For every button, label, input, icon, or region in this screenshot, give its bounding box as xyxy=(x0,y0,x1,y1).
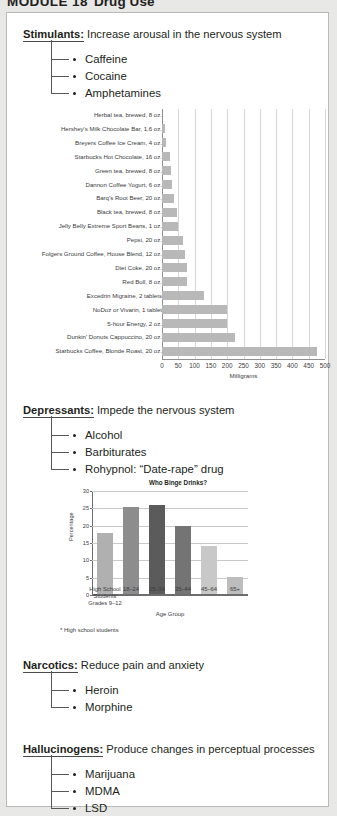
x-axis xyxy=(162,359,325,360)
list-item-label: Heroin xyxy=(85,684,119,696)
bracket-twig xyxy=(52,452,69,453)
bar-row: Black tea, brewed, 8 oz. xyxy=(7,206,330,218)
bullet-icon xyxy=(73,468,76,471)
bar-label: Excedrin Migraine, 2 tablets xyxy=(87,290,162,302)
chart-footnote: * High school students xyxy=(60,627,119,633)
category-item-list: Marijuana MDMA LSD xyxy=(51,766,328,816)
category-name: Stimulants: xyxy=(23,28,84,42)
list-item: Marijuana xyxy=(51,766,328,783)
y-axis-tick: 20 xyxy=(83,523,89,529)
list-item-label: Rohypnol: “Date-rape” drug xyxy=(85,463,224,475)
x-axis-tick: 500 xyxy=(313,362,337,369)
bar xyxy=(175,526,191,594)
bar-label: Jelly Belly Extreme Sport Beans, 1 oz. xyxy=(59,220,162,232)
bar-row: Breyers Coffee Ice Cream, 4 oz. xyxy=(7,137,330,149)
y-axis-tickmark xyxy=(90,508,92,509)
chart-title: Who Binge Drinks? xyxy=(64,479,292,486)
bracket-twig xyxy=(52,435,69,436)
content-card: Stimulants: Increase arousal in the nerv… xyxy=(6,12,329,807)
bullet-icon xyxy=(73,706,76,709)
bracket-twig xyxy=(52,59,69,60)
bar xyxy=(162,291,204,300)
bar-row: Barq's Root Beer, 20 oz. xyxy=(7,192,330,204)
bar xyxy=(162,277,187,286)
y-axis-tickmark xyxy=(90,526,92,527)
bar-label: Pepsi, 20 oz. xyxy=(127,234,162,246)
list-item-label: Amphetamines xyxy=(85,87,161,99)
list-item: Cocaine xyxy=(51,68,328,85)
category-heading: Stimulants: Increase arousal in the nerv… xyxy=(23,27,328,41)
list-item-label: Barbiturates xyxy=(85,446,146,458)
bullet-icon xyxy=(73,773,76,776)
bar-label: 5-hour Energy, 2 oz. xyxy=(107,318,162,330)
bar xyxy=(162,166,171,175)
bar xyxy=(162,333,235,342)
list-item: Rohypnol: “Date-rape” drug xyxy=(51,461,328,478)
list-item: Caffeine xyxy=(51,51,328,68)
bracket-twig xyxy=(52,774,69,775)
bracket-twig xyxy=(52,76,69,77)
bar-row: Jelly Belly Extreme Sport Beans, 1 oz. xyxy=(7,220,330,232)
list-item: Morphine xyxy=(51,699,328,716)
bullet-icon xyxy=(73,689,76,692)
chart-gridline xyxy=(92,508,248,509)
module-title: Drug Use xyxy=(94,0,155,9)
bar-row: Starbucks Hot Chocolate, 16 oz. xyxy=(7,151,330,163)
list-item: Barbiturates xyxy=(51,444,328,461)
bar xyxy=(162,124,165,133)
bar xyxy=(162,208,177,217)
bar xyxy=(162,152,170,161)
category-heading: Depressants: Impede the nervous system xyxy=(23,403,328,417)
bar-label: Diet Coke, 20 oz. xyxy=(115,262,162,274)
bar-row: Dannon Coffee Yogurt, 6 oz. xyxy=(7,179,330,191)
list-item: LSD xyxy=(51,800,328,816)
bullet-icon xyxy=(73,434,76,437)
x-axis-label: Milligrams xyxy=(184,372,304,379)
y-axis-tick: 15 xyxy=(83,540,89,546)
bar xyxy=(162,250,185,259)
bar-label: Green tea, brewed, 8 oz. xyxy=(95,165,162,177)
category-description: Impede the nervous system xyxy=(97,404,234,416)
y-axis-tickmark xyxy=(90,491,92,492)
bracket-twig xyxy=(52,808,69,809)
y-axis-tickmark xyxy=(90,543,92,544)
bullet-icon xyxy=(73,92,76,95)
category-heading: Hallucinogens: Produce changes in percep… xyxy=(23,742,328,756)
bar-label: Black tea, brewed, 8 oz. xyxy=(97,206,162,218)
bar-row: Hershey's Milk Chocolate Bar, 1.6 oz. xyxy=(7,123,330,135)
x-axis-tick-line: Students xyxy=(86,593,124,600)
list-item-label: LSD xyxy=(85,802,107,814)
bar-label: Starbucks Hot Chocolate, 16 oz. xyxy=(75,151,162,163)
list-item: Alcohol xyxy=(51,427,328,444)
chart-plot-area: 051015202530 xyxy=(92,491,248,595)
bar-label: Starbucks Coffee, Blonde Roast, 20 oz. xyxy=(55,345,162,357)
list-item-label: Marijuana xyxy=(85,768,135,780)
bar-row: Diet Coke, 20 oz. xyxy=(7,262,330,274)
bar-label: Dunkin' Donuts Cappuccino, 20 oz. xyxy=(67,331,162,343)
bracket-twig xyxy=(52,690,69,691)
bar xyxy=(162,138,166,147)
bullet-icon xyxy=(73,451,76,454)
list-item-label: Caffeine xyxy=(85,53,127,65)
y-axis-tickmark xyxy=(90,560,92,561)
y-axis-tickmark xyxy=(90,578,92,579)
y-axis-label: Percentage xyxy=(68,512,74,541)
module-number: MODULE 18 xyxy=(7,0,88,9)
category-hallucinogens: Hallucinogens: Produce changes in percep… xyxy=(7,742,328,816)
module-header: MODULE 18Drug Use xyxy=(7,0,155,9)
category-name: Depressants: xyxy=(23,404,94,418)
bracket-twig xyxy=(52,791,69,792)
bracket-twig xyxy=(52,707,69,708)
y-axis-tick: 5 xyxy=(86,575,89,581)
bar-row: NoDoz or Vivarin, 1 tablet xyxy=(7,304,330,316)
chart-gridline xyxy=(92,560,248,561)
bar xyxy=(162,263,187,272)
bar-row: Excedrin Migraine, 2 tablets xyxy=(7,290,330,302)
bullet-icon xyxy=(73,790,76,793)
bar-row: Herbal tea, brewed, 8 oz. xyxy=(7,109,330,121)
bar xyxy=(162,319,227,328)
category-item-list: Heroin Morphine xyxy=(51,682,328,716)
bullet-icon xyxy=(73,58,76,61)
category-stimulants: Stimulants: Increase arousal in the nerv… xyxy=(7,27,328,102)
bar-label: NoDoz or Vivarin, 1 tablet xyxy=(93,304,162,316)
